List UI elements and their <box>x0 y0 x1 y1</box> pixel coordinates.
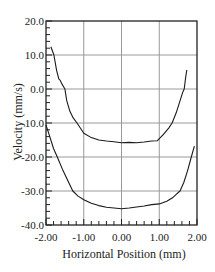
x-tick-label: -2.00 <box>35 231 58 243</box>
y-tick-label: -40.0 <box>21 219 44 231</box>
x-axis-label: Horizontal Position (mm) <box>62 247 185 261</box>
y-tick-label: 10.0 <box>25 49 45 61</box>
x-axis-tick-labels: -2.00-1.000.001.002.00 <box>35 231 208 243</box>
x-tick-label: 0.00 <box>112 231 132 243</box>
y-tick-label: 0.0 <box>30 83 44 95</box>
x-tick-label: 2.00 <box>187 231 207 243</box>
velocity-profile-chart: 20.010.00.0-10.0-20.0-30.0-40.0 -2.00-1.… <box>0 0 215 272</box>
x-tick-label: -1.00 <box>72 231 95 243</box>
y-tick-label: -30.0 <box>21 185 44 197</box>
y-axis-label: Velocity (mm/s) <box>11 83 25 161</box>
x-tick-label: 1.00 <box>150 231 170 243</box>
y-tick-label: 20.0 <box>25 15 45 27</box>
